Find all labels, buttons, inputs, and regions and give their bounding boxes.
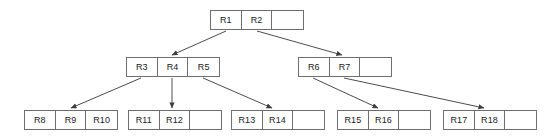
node-cell-r14[interactable]: R14 — [263, 111, 294, 129]
node-cell-r5[interactable]: R5 — [188, 58, 219, 76]
tree-node-internal-right[interactable]: R6R7 — [298, 57, 392, 77]
node-cell-empty[interactable] — [190, 111, 221, 129]
node-cell-r17[interactable]: R17 — [444, 111, 475, 129]
node-cell-r8[interactable]: R8 — [25, 111, 56, 129]
node-cell-r2[interactable]: R2 — [242, 11, 273, 29]
node-cell-r12[interactable]: R12 — [160, 111, 191, 129]
node-cell-r1[interactable]: R1 — [211, 11, 242, 29]
node-cell-r16[interactable]: R16 — [369, 111, 400, 129]
node-cell-empty[interactable] — [399, 111, 430, 129]
edge-right-to-leaf-5 — [344, 78, 484, 108]
edge-right-to-leaf-4 — [313, 78, 378, 108]
b-tree-diagram: R1R2R3R4R5R6R7R8R9R10R11R12R13R14R15R16R… — [0, 0, 550, 136]
node-cell-empty[interactable] — [360, 58, 391, 76]
node-cell-r10[interactable]: R10 — [86, 111, 117, 129]
edge-left-to-leaf-3 — [203, 78, 272, 108]
node-cell-r11[interactable]: R11 — [129, 111, 160, 129]
node-cell-empty[interactable] — [272, 11, 303, 29]
node-cell-r7[interactable]: R7 — [330, 58, 361, 76]
tree-node-leaf-4[interactable]: R15R16 — [337, 110, 431, 130]
tree-node-leaf-2[interactable]: R11R12 — [128, 110, 222, 130]
tree-node-leaf-1[interactable]: R8R9R10 — [24, 110, 118, 130]
tree-node-leaf-5[interactable]: R17R18 — [443, 110, 537, 130]
node-cell-r13[interactable]: R13 — [232, 111, 263, 129]
node-cell-r3[interactable]: R3 — [127, 58, 158, 76]
node-cell-r9[interactable]: R9 — [56, 111, 87, 129]
tree-node-root[interactable]: R1R2 — [210, 10, 304, 30]
edge-root-to-internal-right — [257, 31, 342, 55]
node-cell-r15[interactable]: R15 — [338, 111, 369, 129]
node-cell-empty[interactable] — [505, 111, 536, 129]
edge-left-to-leaf-1 — [71, 78, 141, 108]
tree-node-internal-left[interactable]: R3R4R5 — [126, 57, 220, 77]
node-cell-r18[interactable]: R18 — [475, 111, 506, 129]
node-cell-empty[interactable] — [293, 111, 324, 129]
node-cell-r6[interactable]: R6 — [299, 58, 330, 76]
node-cell-r4[interactable]: R4 — [158, 58, 189, 76]
tree-node-leaf-3[interactable]: R13R14 — [231, 110, 325, 130]
edge-root-to-internal-left — [172, 31, 226, 55]
